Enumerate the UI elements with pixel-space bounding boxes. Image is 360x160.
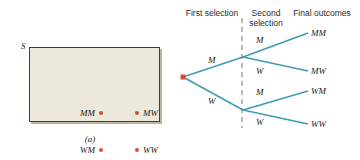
branch-label-second-lower-m: M [256,87,264,97]
branch-label-first-w: W [208,96,216,106]
final-outcome-ww: WW [311,119,326,129]
branch-label-first-m: M [208,55,216,65]
branch-label-second-lower-w: W [256,117,264,127]
figure-container: S MM MW WM WW (a) [0,0,360,160]
sample-space-label: S [21,41,26,51]
branch-second-lower-m [243,91,308,110]
branch-second-upper-w [243,57,308,71]
outcome-label-mw: MW [143,108,158,118]
final-outcome-mw: MW [311,66,326,76]
final-outcome-wm: WM [311,86,326,96]
outcome-dot-icon [135,148,139,152]
outcome-point-mm: MM [80,108,103,118]
column-header-final-outcomes: Final outcomes [292,8,352,18]
outcome-point-wm: WM [80,145,103,155]
outcome-dot-icon [99,111,103,115]
root-node-dot-icon [181,75,186,80]
panel-b-tree-diagram: First selection Second selection Final o… [180,0,360,160]
outcome-dot-icon [99,148,103,152]
column-header-first-selection: First selection [184,8,240,18]
branch-label-second-upper-w: W [256,66,264,76]
outcome-label-mm: MM [80,108,95,118]
sample-space-region: MM MW WM WW [29,47,160,122]
outcome-dot-icon [135,111,139,115]
branch-second-lower-w [243,110,308,124]
panel-a-sample-space: S MM MW WM WW (a) [0,0,180,160]
outcome-label-ww: WW [143,145,158,155]
column-header-second-selection: Second selection [238,8,294,28]
outcome-point-ww: WW [135,145,158,155]
branch-second-upper-m [243,33,308,57]
outcome-label-wm: WM [80,145,95,155]
branch-label-second-upper-m: M [256,35,264,45]
panel-a-caption: (a) [0,134,180,144]
outcome-point-mw: MW [135,108,158,118]
final-outcome-mm: MM [311,28,326,38]
